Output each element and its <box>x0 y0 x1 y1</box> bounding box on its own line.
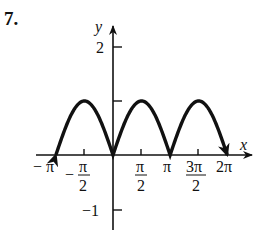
x-tick-label-half-pi: π 2 <box>135 158 147 194</box>
graph: y x 2 −1 − π − π 2 π 2 π 3π 2 2π <box>0 0 270 238</box>
x-tick-label-neg-half-pi: − π 2 <box>65 158 90 194</box>
x-tick-label-pi: π <box>163 158 171 175</box>
svg-text:2: 2 <box>192 177 200 194</box>
svg-text:π: π <box>136 158 144 175</box>
x-tick-label-three-half-pi: 3π 2 <box>186 158 206 194</box>
x-axis-label: x <box>239 136 247 153</box>
y-axis-label: y <box>93 18 103 36</box>
y-tick-label-neg1: −1 <box>82 202 99 219</box>
svg-text:π: π <box>79 158 87 175</box>
curve-abs-sin <box>56 101 227 155</box>
svg-text:2: 2 <box>79 177 87 194</box>
svg-text:2: 2 <box>137 177 145 194</box>
svg-text:−: − <box>65 166 74 183</box>
x-tick-label-neg-pi: − π <box>33 158 54 175</box>
x-ticks <box>84 149 198 155</box>
svg-text:3π: 3π <box>186 158 202 175</box>
y-tick-label-2: 2 <box>96 39 104 56</box>
x-tick-label-two-pi: 2π <box>216 158 232 175</box>
